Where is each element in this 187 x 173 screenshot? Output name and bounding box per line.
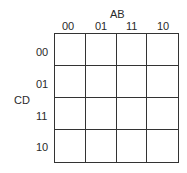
column-label: 00 (62, 20, 74, 32)
kmap-cell (117, 66, 148, 98)
kmap-cell (147, 34, 178, 66)
kmap-cell (86, 130, 117, 162)
kmap-cell (55, 98, 86, 130)
row-label: 10 (36, 141, 48, 153)
column-variable-label: AB (110, 8, 125, 20)
row-label: 00 (36, 46, 48, 58)
kmap-cell (147, 98, 178, 130)
kmap-cell (117, 34, 148, 66)
column-label: 01 (95, 20, 107, 32)
kmap-cell (55, 66, 86, 98)
row-label: 01 (36, 78, 48, 90)
kmap-cell (86, 34, 117, 66)
kmap-cell (117, 130, 148, 162)
column-label: 10 (157, 20, 169, 32)
karnaugh-map-grid (54, 33, 179, 163)
kmap-cell (86, 66, 117, 98)
kmap-cell (55, 130, 86, 162)
kmap-cell (147, 130, 178, 162)
kmap-cell (55, 34, 86, 66)
row-variable-label: CD (14, 94, 30, 106)
column-label: 11 (126, 20, 137, 32)
kmap-cell (86, 98, 117, 130)
kmap-cell (117, 98, 148, 130)
row-label: 11 (36, 110, 47, 122)
kmap-cell (147, 66, 178, 98)
